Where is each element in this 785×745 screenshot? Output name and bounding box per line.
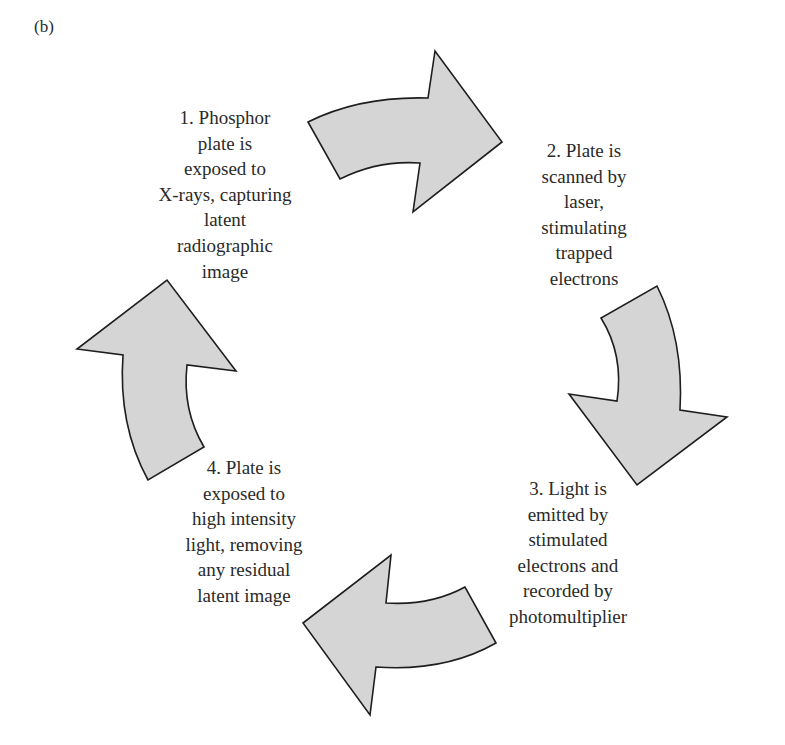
step-text-line: X-rays, capturing — [159, 182, 292, 208]
step-text-line: 4. Plate is — [185, 455, 302, 481]
step-text-line: scanned by — [541, 164, 627, 190]
step-2-text: 2. Plate isscanned bylaser,stimulatingtr… — [541, 138, 627, 292]
step-text-line: electrons — [541, 266, 627, 292]
step-text-line: 3. Light is — [509, 476, 627, 502]
step-text-line: plate is — [159, 131, 292, 157]
step-text-line: 1. Phosphor — [159, 105, 292, 131]
curved-arrow-down-icon — [569, 286, 727, 485]
panel-label: (b) — [34, 17, 54, 37]
step-text-line: any residual — [185, 557, 302, 583]
step-text-line: photomultiplier — [509, 604, 627, 630]
step-text-line: laser, — [541, 189, 627, 215]
curved-arrow-up-icon — [77, 280, 236, 480]
curved-arrow-left-icon — [303, 555, 496, 715]
step-text-line: high intensity — [185, 506, 302, 532]
step-4-text: 4. Plate isexposed tohigh intensitylight… — [185, 455, 302, 609]
step-text-line: stimulating — [541, 215, 627, 241]
step-text-line: light, removing — [185, 532, 302, 558]
step-text-line: exposed to — [185, 481, 302, 507]
step-text-line: stimulated — [509, 527, 627, 553]
step-1-text: 1. Phosphorplate isexposed toX-rays, cap… — [159, 105, 292, 284]
step-text-line: latent — [159, 207, 292, 233]
cycle-arrows — [0, 0, 785, 745]
cycle-diagram: (b) 1. Phosphorplate isexposed toX-rays,… — [0, 0, 785, 745]
step-text-line: radiographic — [159, 233, 292, 259]
step-text-line: 2. Plate is — [541, 138, 627, 164]
step-text-line: trapped — [541, 240, 627, 266]
step-3-text: 3. Light isemitted bystimulatedelectrons… — [509, 476, 627, 630]
curved-arrow-right-icon — [308, 51, 502, 212]
step-text-line: image — [159, 259, 292, 285]
step-text-line: electrons and — [509, 553, 627, 579]
step-text-line: recorded by — [509, 578, 627, 604]
step-text-line: latent image — [185, 583, 302, 609]
step-text-line: exposed to — [159, 156, 292, 182]
step-text-line: emitted by — [509, 502, 627, 528]
